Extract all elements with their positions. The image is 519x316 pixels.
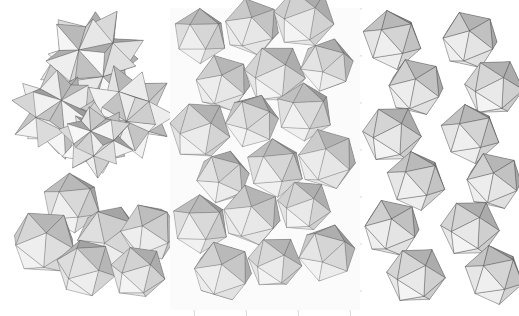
icosahedron bbox=[443, 12, 497, 67]
icosahedron bbox=[465, 62, 519, 113]
figure-canvas bbox=[0, 0, 519, 316]
icosahedron bbox=[441, 105, 498, 164]
right-panel-drawing bbox=[348, 0, 519, 316]
left-panel bbox=[0, 0, 190, 316]
icosahedron bbox=[363, 109, 422, 160]
icosahedron bbox=[363, 11, 420, 70]
icosahedron bbox=[465, 246, 519, 305]
center-panel-drawing bbox=[178, 0, 350, 316]
center-panel bbox=[178, 0, 350, 316]
lower-icosahedra-cluster bbox=[15, 173, 180, 296]
icosahedron bbox=[387, 152, 444, 211]
icosahedron bbox=[441, 203, 500, 254]
icosahedra-lattice bbox=[363, 11, 519, 305]
polyhedron-face bbox=[119, 293, 145, 297]
right-panel bbox=[348, 0, 519, 316]
icosahedron bbox=[387, 250, 446, 301]
left-panel-drawing bbox=[0, 0, 190, 316]
icosahedron bbox=[365, 200, 419, 255]
upper-stellated-cluster bbox=[12, 11, 175, 178]
